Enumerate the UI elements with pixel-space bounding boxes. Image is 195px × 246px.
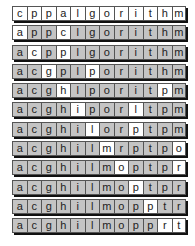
array-cell: c: [27, 83, 42, 98]
array-cell: g: [41, 180, 56, 195]
array-cell: h: [56, 218, 71, 233]
array-cell: h: [56, 141, 71, 156]
array-cell: m: [172, 102, 187, 117]
array-cell: o: [99, 64, 114, 79]
array-cell: h: [157, 25, 172, 40]
array-cell: r: [114, 83, 129, 98]
array-row: acpplgorithm: [12, 45, 186, 60]
array-cell: r: [114, 6, 129, 21]
selection-sort-grid: cppalgorithmappclgorithmacpplgorithmacgp…: [12, 6, 186, 238]
array-cell: c: [27, 122, 42, 137]
array-cell: o: [99, 83, 114, 98]
array-cell: a: [12, 83, 27, 98]
array-cell: i: [70, 141, 85, 156]
array-cell: p: [41, 45, 56, 60]
array-cell: i: [70, 122, 85, 137]
array-cell: a: [12, 122, 27, 137]
array-cell: p: [157, 122, 172, 137]
array-cell: a: [12, 160, 27, 175]
array-cell: a: [12, 199, 27, 214]
array-cell: m: [99, 218, 114, 233]
array-cell: l: [85, 199, 100, 214]
array-cell: i: [128, 83, 143, 98]
array-cell: h: [56, 122, 71, 137]
array-cell: p: [41, 25, 56, 40]
array-cell: p: [56, 64, 71, 79]
array-cell: a: [12, 141, 27, 156]
array-cell: l: [85, 180, 100, 195]
array-cell: m: [172, 64, 187, 79]
array-cell: m: [99, 160, 114, 175]
array-cell: t: [143, 102, 158, 117]
array-cell: m: [172, 6, 187, 21]
array-cell: p: [128, 141, 143, 156]
array-cell: p: [157, 160, 172, 175]
array-cell: g: [41, 218, 56, 233]
array-cell: r: [114, 25, 129, 40]
array-cell: t: [143, 122, 158, 137]
array-cell: t: [143, 45, 158, 60]
array-cell: t: [143, 83, 158, 98]
array-cell: a: [12, 45, 27, 60]
array-row: acghilmoptpr: [12, 160, 186, 175]
array-cell: r: [114, 141, 129, 156]
array-cell: p: [85, 64, 100, 79]
array-cell: p: [27, 25, 42, 40]
array-cell: m: [99, 199, 114, 214]
array-cell: c: [12, 6, 27, 21]
array-cell: i: [70, 102, 85, 117]
array-cell: m: [172, 25, 187, 40]
array-cell: p: [157, 83, 172, 98]
array-cell: l: [128, 102, 143, 117]
array-cell: a: [56, 6, 71, 21]
array-cell: o: [114, 180, 129, 195]
array-cell: t: [157, 199, 172, 214]
array-cell: m: [172, 45, 187, 60]
array-cell: i: [70, 160, 85, 175]
array-cell: g: [85, 45, 100, 60]
array-cell: o: [114, 199, 129, 214]
array-cell: p: [128, 180, 143, 195]
array-cell: p: [128, 218, 143, 233]
array-cell: l: [85, 160, 100, 175]
array-cell: g: [41, 160, 56, 175]
array-cell: p: [85, 102, 100, 117]
array-cell: l: [85, 218, 100, 233]
array-cell: o: [99, 25, 114, 40]
array-row: appclgorithm: [12, 25, 186, 40]
array-cell: i: [70, 218, 85, 233]
array-row: acghlporitpm: [12, 83, 186, 98]
array-row: cppalgorithm: [12, 6, 186, 21]
array-row: acghilmrptpo: [12, 141, 186, 156]
array-cell: p: [41, 6, 56, 21]
array-row: acghilmoptpr: [12, 180, 186, 195]
array-cell: p: [157, 180, 172, 195]
array-cell: c: [27, 180, 42, 195]
array-cell: o: [172, 141, 187, 156]
array-cell: g: [41, 64, 56, 79]
array-cell: l: [85, 122, 100, 137]
array-cell: t: [143, 141, 158, 156]
array-cell: c: [27, 141, 42, 156]
array-cell: a: [12, 180, 27, 195]
array-cell: o: [114, 218, 129, 233]
array-cell: r: [114, 122, 129, 137]
array-cell: r: [172, 160, 187, 175]
array-cell: i: [128, 64, 143, 79]
array-cell: a: [12, 25, 27, 40]
array-cell: g: [41, 141, 56, 156]
array-cell: t: [143, 180, 158, 195]
array-row: acghiporltpm: [12, 102, 186, 117]
array-cell: p: [128, 160, 143, 175]
array-cell: t: [172, 218, 187, 233]
array-cell: m: [99, 180, 114, 195]
array-cell: t: [143, 6, 158, 21]
array-cell: p: [27, 6, 42, 21]
array-cell: o: [99, 102, 114, 117]
array-cell: c: [56, 25, 71, 40]
array-cell: o: [99, 45, 114, 60]
array-cell: g: [85, 25, 100, 40]
array-cell: t: [143, 64, 158, 79]
array-cell: r: [114, 45, 129, 60]
array-cell: t: [143, 160, 158, 175]
